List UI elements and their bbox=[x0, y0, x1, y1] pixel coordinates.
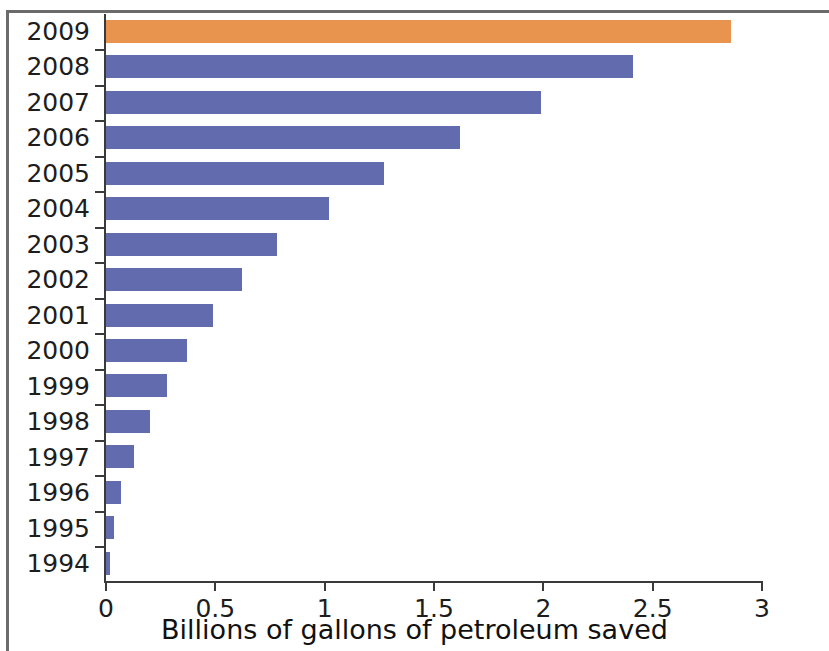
bar-2006[interactable] bbox=[106, 126, 460, 149]
y-tick-label: 2000 bbox=[26, 338, 90, 363]
y-tick-label: 1995 bbox=[26, 516, 90, 541]
y-tick-label: 1996 bbox=[26, 480, 90, 505]
y-tick-mark bbox=[95, 156, 105, 158]
bar-row bbox=[106, 120, 762, 155]
bar-2000[interactable] bbox=[106, 339, 187, 362]
x-tick-mark bbox=[761, 581, 763, 591]
bar-row bbox=[106, 14, 762, 49]
bar-2005[interactable] bbox=[106, 162, 384, 185]
bar-2001[interactable] bbox=[106, 304, 213, 327]
bar-row bbox=[106, 85, 762, 120]
y-tick-mark bbox=[95, 475, 105, 477]
bar-2004[interactable] bbox=[106, 197, 329, 220]
y-tick-mark bbox=[95, 333, 105, 335]
y-tick-mark bbox=[95, 49, 105, 51]
frame-top-rule bbox=[6, 10, 829, 13]
bar-chart-figure: 2009 2008 2007 2006 2005 2004 2003 2002 … bbox=[0, 0, 829, 651]
y-tick-label: 2009 bbox=[26, 19, 90, 44]
x-axis-title: Billions of gallons of petroleum saved bbox=[0, 614, 829, 645]
bar-row bbox=[106, 368, 762, 403]
y-tick-mark bbox=[95, 85, 105, 87]
y-axis-tick-labels: 2009 2008 2007 2006 2005 2004 2003 2002 … bbox=[0, 14, 104, 581]
y-tick-mark bbox=[95, 262, 105, 264]
y-tick-label: 1999 bbox=[26, 374, 90, 399]
y-tick-mark bbox=[95, 369, 105, 371]
y-tick-mark bbox=[95, 227, 105, 229]
bar-row bbox=[106, 510, 762, 545]
y-tick-label: 2002 bbox=[26, 267, 90, 292]
bar-row bbox=[106, 404, 762, 439]
x-tick-mark bbox=[105, 581, 107, 591]
bar-1994[interactable] bbox=[106, 552, 110, 575]
y-tick-mark bbox=[95, 511, 105, 513]
plot-area: 0 0.5 1 1.5 2 2.5 3 bbox=[104, 14, 762, 581]
y-tick-label: 2005 bbox=[26, 161, 90, 186]
y-tick-mark bbox=[95, 120, 105, 122]
x-tick-mark bbox=[214, 581, 216, 591]
x-tick-mark bbox=[542, 581, 544, 591]
y-tick-label: 2006 bbox=[26, 125, 90, 150]
bar-row bbox=[106, 298, 762, 333]
bar-row bbox=[106, 191, 762, 226]
x-tick-mark bbox=[324, 581, 326, 591]
bar-row bbox=[106, 546, 762, 581]
bar-row bbox=[106, 262, 762, 297]
bar-1998[interactable] bbox=[106, 410, 150, 433]
bar-2009[interactable] bbox=[106, 20, 731, 43]
bar-row bbox=[106, 49, 762, 84]
y-tick-mark bbox=[95, 298, 105, 300]
y-tick-mark bbox=[95, 404, 105, 406]
x-tick-mark bbox=[433, 581, 435, 591]
y-tick-label: 2001 bbox=[26, 303, 90, 328]
bar-row bbox=[106, 439, 762, 474]
bar-1996[interactable] bbox=[106, 481, 121, 504]
y-tick-mark bbox=[95, 546, 105, 548]
bar-series bbox=[106, 14, 762, 581]
y-tick-label: 2008 bbox=[26, 54, 90, 79]
bar-row bbox=[106, 475, 762, 510]
x-tick-mark bbox=[652, 581, 654, 591]
y-tick-label: 1998 bbox=[26, 409, 90, 434]
bar-row bbox=[106, 333, 762, 368]
y-tick-mark bbox=[95, 440, 105, 442]
bar-2008[interactable] bbox=[106, 55, 633, 78]
bar-1997[interactable] bbox=[106, 445, 134, 468]
bar-row bbox=[106, 156, 762, 191]
y-tick-label: 2003 bbox=[26, 232, 90, 257]
y-tick-label: 1997 bbox=[26, 445, 90, 470]
bar-2003[interactable] bbox=[106, 233, 277, 256]
y-tick-label: 2007 bbox=[26, 90, 90, 115]
bar-2002[interactable] bbox=[106, 268, 242, 291]
y-tick-label: 2004 bbox=[26, 196, 90, 221]
bar-1995[interactable] bbox=[106, 516, 114, 539]
bar-1999[interactable] bbox=[106, 374, 167, 397]
y-tick-label: 1994 bbox=[26, 551, 90, 576]
bar-2007[interactable] bbox=[106, 91, 541, 114]
y-tick-mark bbox=[95, 191, 105, 193]
bar-row bbox=[106, 227, 762, 262]
